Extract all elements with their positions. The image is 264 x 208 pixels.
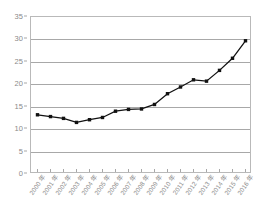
y-tick-mark-10 — [24, 128, 27, 129]
data-point-2007年 — [127, 108, 130, 111]
x-tick-mark-4 — [89, 169, 90, 172]
data-point-2009年 — [153, 103, 156, 106]
y-tick-label-30: 30 — [14, 34, 23, 43]
x-tick-mark-8 — [141, 169, 142, 172]
data-point-2013年 — [205, 79, 208, 82]
y-tick-label-25: 25 — [14, 56, 23, 65]
data-point-2005年 — [101, 116, 104, 119]
y-tick-label-10: 10 — [14, 124, 23, 133]
y-tick-label-5: 5 — [19, 146, 23, 155]
data-series — [31, 17, 252, 174]
x-tick-mark-1 — [50, 169, 51, 172]
plot-area — [30, 16, 251, 173]
y-tick-mark-5 — [24, 150, 27, 151]
data-point-2010年 — [166, 92, 169, 95]
y-tick-mark-15 — [24, 105, 27, 106]
data-point-2015年 — [231, 57, 234, 60]
x-tick-mark-7 — [128, 169, 129, 172]
x-tick-mark-11 — [180, 169, 181, 172]
y-tick-mark-25 — [24, 60, 27, 61]
data-point-2001年 — [49, 115, 52, 118]
x-tick-mark-10 — [167, 169, 168, 172]
data-point-2003年 — [75, 121, 78, 124]
x-tick-mark-3 — [76, 169, 77, 172]
y-tick-label-20: 20 — [14, 79, 23, 88]
data-point-2016年 — [244, 39, 247, 42]
data-point-2008年 — [140, 107, 143, 110]
x-tick-mark-0 — [37, 169, 38, 172]
data-point-2012年 — [192, 78, 195, 81]
y-tick-label-35: 35 — [14, 12, 23, 21]
data-point-2000年 — [36, 113, 39, 116]
x-tick-mark-13 — [206, 169, 207, 172]
x-tick-mark-15 — [232, 169, 233, 172]
data-point-2014年 — [218, 69, 221, 72]
series-markers — [36, 39, 247, 124]
data-point-2002年 — [62, 117, 65, 120]
y-tick-mark-20 — [24, 83, 27, 84]
y-tick-label-15: 15 — [14, 101, 23, 110]
x-tick-mark-14 — [219, 169, 220, 172]
data-point-2004年 — [88, 118, 91, 121]
line-chart: 05101520253035 2000 年2001 年2002 年2003 年2… — [0, 0, 264, 208]
y-tick-label-0: 0 — [19, 169, 23, 178]
data-point-2011年 — [179, 85, 182, 88]
x-tick-mark-16 — [245, 169, 246, 172]
x-tick-mark-2 — [63, 169, 64, 172]
x-tick-mark-6 — [115, 169, 116, 172]
x-axis: 2000 年2001 年2002 年2003 年2004 年2005 年2006… — [30, 173, 251, 208]
y-tick-mark-35 — [24, 16, 27, 17]
y-tick-mark-30 — [24, 38, 27, 39]
x-tick-mark-12 — [193, 169, 194, 172]
y-tick-mark-0 — [24, 173, 27, 174]
x-tick-mark-9 — [154, 169, 155, 172]
y-axis: 05101520253035 — [0, 16, 27, 173]
data-point-2006年 — [114, 110, 117, 113]
x-tick-mark-5 — [102, 169, 103, 172]
